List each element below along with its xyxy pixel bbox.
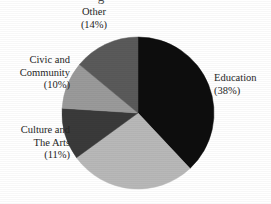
pie-label-culture-and-the-arts: Culture and The Arts (11%) bbox=[0, 124, 70, 162]
pie-label-civic-line1: Civic and bbox=[8, 54, 70, 67]
pie-label-other-name: Other bbox=[74, 6, 114, 19]
pie-chart-svg bbox=[0, 0, 271, 204]
pie-chart-figure: g Other (14%) Civic and Community (10%) … bbox=[0, 0, 271, 204]
pie-label-education-name: Education bbox=[214, 72, 271, 85]
pie-label-civic-and-community: Civic and Community (10%) bbox=[8, 54, 70, 92]
pie-label-culture-line2: The Arts bbox=[0, 137, 70, 150]
pie-label-civic-percent: (10%) bbox=[8, 79, 70, 92]
pie-label-education: Education (38%) bbox=[214, 72, 271, 97]
pie-label-other-percent: (14%) bbox=[74, 19, 114, 32]
pie-label-other: Other (14%) bbox=[74, 6, 114, 31]
pie-label-culture-line1: Culture and bbox=[0, 124, 70, 137]
pie-slice-group bbox=[62, 37, 214, 189]
pie-label-education-percent: (38%) bbox=[214, 85, 271, 98]
pie-label-civic-line2: Community bbox=[8, 67, 70, 80]
pie-label-culture-percent: (11%) bbox=[0, 149, 70, 162]
